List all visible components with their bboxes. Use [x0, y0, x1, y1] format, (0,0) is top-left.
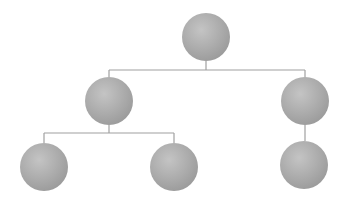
node-leaf-right	[280, 141, 328, 189]
node-leaf-left	[20, 143, 68, 191]
connector-lines	[44, 61, 305, 143]
node-leaf-middle	[150, 143, 198, 191]
tree-diagram-svg	[0, 0, 349, 210]
tree-diagram	[0, 0, 349, 210]
tree-nodes	[20, 13, 329, 191]
node-mid-right	[281, 77, 329, 125]
node-root	[182, 13, 230, 61]
node-mid-left	[85, 77, 133, 125]
